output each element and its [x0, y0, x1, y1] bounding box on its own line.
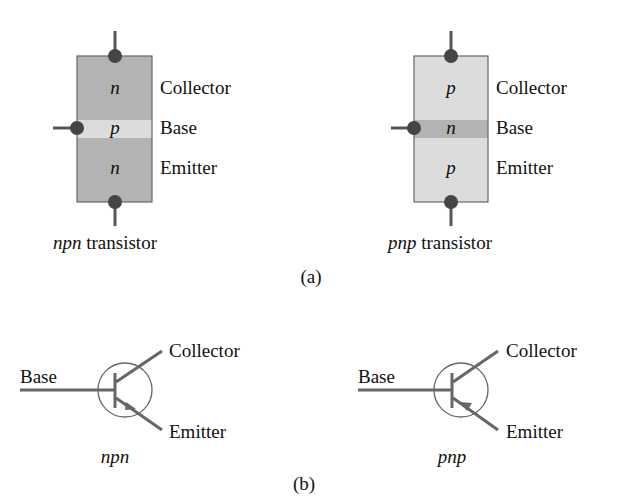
npn-symbol-collector-lead: [116, 351, 162, 382]
npn-emitter-label: Emitter: [160, 157, 218, 178]
pnp-base-letter: n: [446, 117, 456, 138]
npn-symbol: Base Collector Emitter npn: [20, 340, 240, 467]
pnp-emitter-label: Emitter: [496, 157, 554, 178]
npn-block-caption: npn transistor: [53, 232, 158, 253]
npn-emitter-terminal-dot: [108, 195, 122, 209]
npn-emitter-arrow-icon: [125, 402, 136, 410]
pnp-collector-terminal-dot: [444, 49, 458, 63]
part-a-label: (a): [300, 266, 321, 288]
pnp-block-diagram: p n p Collector Base Emitter pnp transis…: [386, 31, 567, 253]
pnp-symbol-caption: pnp: [436, 446, 467, 467]
pnp-symbol-emitter-lead: [453, 398, 498, 430]
npn-collector-label: Collector: [160, 77, 231, 98]
pnp-collector-label: Collector: [496, 77, 567, 98]
npn-base-label: Base: [160, 117, 197, 138]
pnp-caption-rest: transistor: [417, 232, 493, 253]
pnp-symbol: Base Collector Emitter pnp: [358, 340, 577, 467]
pnp-block-caption: pnp transistor: [386, 232, 493, 253]
npn-symbol-emitter-lead: [116, 398, 162, 430]
pnp-emitter-terminal-dot: [444, 195, 458, 209]
pnp-base-label: Base: [496, 117, 533, 138]
npn-symbol-collector-label: Collector: [169, 340, 240, 361]
npn-symbol-caption: npn: [101, 446, 130, 467]
npn-symbol-emitter-label: Emitter: [169, 421, 227, 442]
part-b-label: (b): [293, 473, 315, 495]
pnp-caption-italic: pnp: [386, 232, 417, 253]
npn-emitter-letter: n: [110, 157, 120, 178]
npn-collector-letter: n: [110, 77, 120, 98]
pnp-symbol-collector-label: Collector: [506, 340, 577, 361]
pnp-symbol-base-label: Base: [358, 366, 395, 387]
npn-caption-rest: transistor: [82, 232, 158, 253]
transistor-figure: n p n Collector Base Emitter npn transis…: [0, 0, 622, 497]
npn-base-letter: p: [108, 117, 120, 138]
pnp-symbol-collector-lead: [453, 351, 498, 382]
pnp-collector-letter: p: [444, 77, 456, 98]
npn-symbol-base-label: Base: [20, 366, 57, 387]
npn-base-terminal-dot: [70, 121, 84, 135]
pnp-base-terminal-dot: [407, 121, 421, 135]
pnp-symbol-emitter-label: Emitter: [506, 421, 564, 442]
npn-collector-terminal-dot: [108, 49, 122, 63]
npn-caption-italic: npn: [53, 232, 82, 253]
npn-block-diagram: n p n Collector Base Emitter npn transis…: [53, 31, 231, 253]
pnp-emitter-letter: p: [444, 157, 456, 178]
